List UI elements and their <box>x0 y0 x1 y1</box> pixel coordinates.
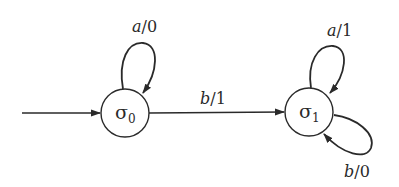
label-b0: b/0 <box>344 162 370 181</box>
transition-s1-s1-a <box>310 46 344 93</box>
transition-s0-s0-a <box>122 43 155 93</box>
state-s1: σ1 <box>285 88 333 136</box>
state-diagram: σ0 σ1 a/0 b/1 a/1 b/0 <box>0 0 399 187</box>
label-a0: a/0 <box>132 17 157 36</box>
transition-s0-s1-b <box>149 112 284 113</box>
state-s0: σ0 <box>101 89 149 137</box>
label-b1: b/1 <box>200 89 226 108</box>
label-a1: a/1 <box>327 21 352 40</box>
